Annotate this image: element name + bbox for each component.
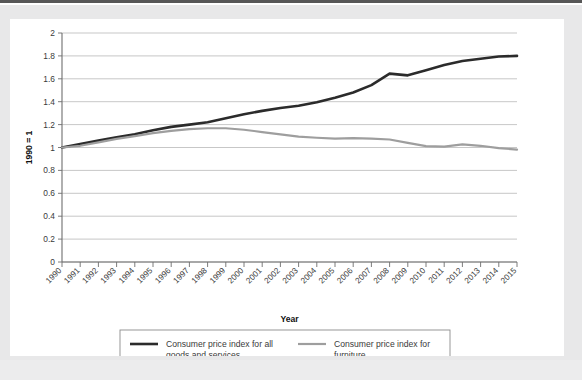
x-tick-label: 2007 [354, 266, 374, 286]
legend-label-cont-0: goods and services [166, 350, 240, 356]
y-tick-label: 0.4 [43, 211, 55, 221]
y-tick-label: 2 [50, 28, 55, 38]
x-tick-label: 2010 [408, 266, 428, 286]
x-tick-label: 2001 [244, 266, 264, 286]
x-tick-label: 1992 [81, 266, 101, 286]
y-tick-label: 1.6 [43, 74, 55, 84]
y-tick-label: 1.4 [43, 97, 55, 107]
series-line-1 [62, 128, 517, 149]
x-tick-label: 2002 [263, 266, 283, 286]
chart-panel: 00.20.40.60.811.21.41.61.821990199119921… [10, 19, 564, 356]
x-tick-label: 1990 [44, 266, 64, 286]
x-tick-label: 2012 [445, 266, 465, 286]
footer-band [0, 360, 582, 380]
x-tick-label: 2003 [281, 266, 301, 286]
x-tick-label: 2006 [335, 266, 355, 286]
x-tick-label: 2011 [427, 266, 446, 285]
y-tick-label: 0.2 [43, 234, 55, 244]
x-tick-label: 1999 [208, 266, 228, 286]
x-tick-label: 2008 [372, 266, 392, 286]
x-tick-label: 2009 [390, 266, 410, 286]
x-tick-label: 2000 [226, 266, 246, 286]
legend-label-1: Consumer price index for [334, 339, 430, 349]
x-tick-label: 1998 [190, 266, 210, 286]
x-tick-label: 2014 [481, 266, 501, 286]
x-tick-label: 2015 [499, 266, 519, 286]
x-tick-label: 2013 [463, 266, 483, 286]
y-tick-label: 1.8 [43, 51, 55, 61]
x-axis-title: Year [280, 314, 299, 324]
y-tick-label: 1 [50, 143, 55, 153]
y-axis-title: 1990 = 1 [24, 130, 34, 164]
figure-outer-background: 00.20.40.60.811.21.41.61.821990199119921… [0, 5, 582, 360]
legend-label-cont-1: furniture [334, 350, 366, 356]
x-tick-label: 2005 [317, 266, 337, 286]
x-tick-label: 1991 [62, 266, 82, 286]
x-tick-label: 1993 [99, 266, 119, 286]
y-tick-label: 0.8 [43, 165, 55, 175]
y-tick-label: 0.6 [43, 188, 55, 198]
line-chart: 00.20.40.60.811.21.41.61.821990199119921… [10, 19, 564, 356]
y-tick-label: 1.2 [43, 120, 55, 130]
x-tick-label: 1996 [153, 266, 173, 286]
legend-label-0: Consumer price index for all [166, 339, 273, 349]
x-tick-label: 1995 [135, 266, 155, 286]
x-tick-label: 1994 [117, 266, 137, 286]
y-tick-label: 0 [50, 257, 55, 267]
x-tick-label: 1997 [172, 266, 192, 286]
x-tick-label: 2004 [299, 266, 319, 286]
